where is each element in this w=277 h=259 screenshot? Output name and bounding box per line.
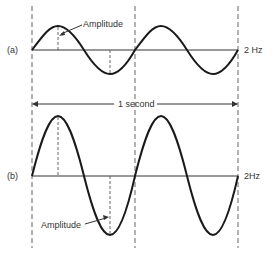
time-guide-lines <box>32 6 238 248</box>
panel-b: Amplitude (b) 2Hz <box>7 116 261 235</box>
panel-label-a: (a) <box>7 45 18 55</box>
time-span-arrow: 1 second <box>32 99 238 109</box>
arrow-left-icon <box>32 101 38 107</box>
sine-wave-diagram: Amplitude (a) 2 Hz 1 second Amplitude (b… <box>0 0 277 259</box>
amplitude-label-b: Amplitude <box>41 220 81 230</box>
arrowhead-icon <box>103 215 109 220</box>
amplitude-arrow-b <box>85 218 106 224</box>
arrow-right-icon <box>232 101 238 107</box>
arrowhead-icon <box>59 31 65 36</box>
frequency-label-a: 2 Hz <box>244 45 263 55</box>
panel-label-b: (b) <box>7 171 18 181</box>
time-span-label: 1 second <box>118 99 155 109</box>
frequency-label-b: 2Hz <box>244 171 261 181</box>
amplitude-label-a: Amplitude <box>83 19 123 29</box>
